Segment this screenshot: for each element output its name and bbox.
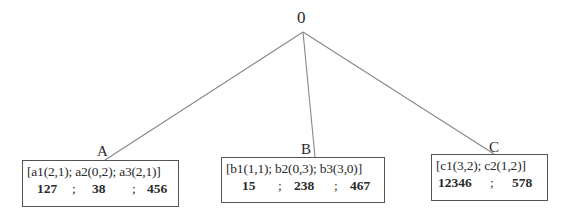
node-label-b: B xyxy=(301,141,311,157)
value: 456 xyxy=(147,180,167,197)
node-box-a: [a1(2,1); a2(0,2); a3(2,1)] 127 ; 38 ; 4… xyxy=(22,160,179,207)
value: 578 xyxy=(512,174,532,191)
separator: ; xyxy=(334,177,350,194)
node-a-values: 127 ; 38 ; 456 xyxy=(27,180,174,197)
node-box-c: [c1(3,2); c2(1,2)] 12346 ; 578 xyxy=(431,154,548,201)
value: 15 xyxy=(242,177,278,194)
value: 238 xyxy=(294,177,334,194)
node-label-a: A xyxy=(97,143,108,159)
separator: ; xyxy=(278,177,294,194)
value: 127 xyxy=(37,180,72,197)
separator: ; xyxy=(72,180,92,197)
node-b-values: 15 ; 238 ; 467 xyxy=(226,177,380,194)
node-box-b: [b1(1,1); b2(0,3); b3(3,0)] 15 ; 238 ; 4… xyxy=(221,157,385,203)
edge-root-c xyxy=(303,32,494,154)
node-label-c: C xyxy=(489,139,499,155)
separator: ; xyxy=(490,174,512,191)
edge-root-a xyxy=(105,32,303,160)
node-c-values: 12346 ; 578 xyxy=(436,174,543,191)
node-a-moves: [a1(2,1); a2(0,2); a3(2,1)] xyxy=(27,163,174,180)
value: 467 xyxy=(350,177,370,194)
value: 12346 xyxy=(438,174,490,191)
value: 38 xyxy=(92,180,132,197)
node-c-moves: [c1(3,2); c2(1,2)] xyxy=(436,157,543,174)
edge-root-b xyxy=(303,32,315,157)
node-b-moves: [b1(1,1); b2(0,3); b3(3,0)] xyxy=(226,160,380,177)
separator: ; xyxy=(132,180,147,197)
root-node-label: 0 xyxy=(297,8,306,28)
